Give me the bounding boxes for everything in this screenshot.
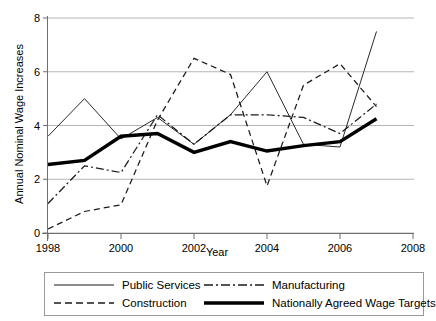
legend-item-manufacturing: Manufacturing (195, 279, 425, 291)
legend-swatch-dash-dot (203, 279, 265, 291)
y-tick-label: 0 (34, 227, 40, 239)
legend-label: Construction (122, 297, 187, 309)
legend-item-public-services: Public Services (45, 279, 195, 291)
legend-swatch-solid-thick (203, 297, 265, 309)
axis-tick-labels: 02468199820002002200420062008 (34, 12, 425, 254)
line-chart-svg: 02468199820002002200420062008 (0, 0, 434, 265)
grid-lines (48, 18, 415, 233)
legend-item-wage-targets: Nationally Agreed Wage Targets (195, 297, 425, 309)
legend-swatch-dashed (53, 297, 115, 309)
y-axis-label: Annual Nominal Wage Increases (13, 9, 25, 239)
y-tick-label: 6 (34, 66, 40, 78)
plot-area: 02468199820002002200420062008 Annual Nom… (0, 0, 434, 265)
legend-swatch-solid-thin (53, 279, 115, 291)
legend-item-construction: Construction (45, 297, 195, 309)
legend-label: Manufacturing (272, 279, 345, 291)
y-tick-label: 4 (34, 120, 40, 132)
x-axis-label: Year (0, 246, 434, 258)
legend-label: Public Services (122, 279, 201, 291)
legend-label: Nationally Agreed Wage Targets (272, 297, 436, 309)
y-tick-label: 8 (34, 12, 40, 24)
chart-legend: Public Services Manufacturing Constructi… (44, 272, 424, 316)
y-tick-label: 2 (34, 173, 40, 185)
data-series-lines (48, 31, 377, 229)
